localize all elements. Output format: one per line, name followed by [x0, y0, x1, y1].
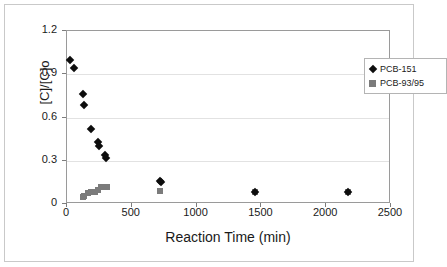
x-tick-mark: [131, 203, 132, 207]
data-point-pcb-93-95: [157, 188, 163, 194]
x-tick-label: 1500: [235, 207, 285, 218]
gridline: [67, 74, 389, 75]
x-axis-title: Reaction Time (min): [66, 229, 390, 245]
gridline: [67, 161, 389, 162]
x-tick-label: 500: [106, 207, 156, 218]
x-tick-mark: [66, 203, 67, 207]
data-point-pcb-151: [87, 125, 95, 133]
y-tick-label: 1.2: [5, 24, 57, 35]
x-tick-label: 1000: [171, 207, 221, 218]
chart-legend: PCB-151 PCB-93/95: [364, 58, 447, 94]
y-tick-label: 0.3: [5, 154, 57, 165]
data-point-pcb-151: [79, 90, 87, 98]
diamond-icon: [369, 65, 377, 73]
x-tick-mark: [196, 203, 197, 207]
data-point-pcb-151: [70, 64, 78, 72]
y-tick-label: 0.6: [5, 111, 57, 122]
x-tick-mark: [260, 203, 261, 207]
x-tick-label: 2000: [300, 207, 350, 218]
x-tick-mark: [325, 203, 326, 207]
data-point-pcb-93-95: [104, 184, 110, 190]
legend-item-label: PCB-93/95: [380, 78, 424, 88]
legend-item-pcb-93-95: PCB-93/95: [369, 76, 442, 90]
data-point-pcb-151: [80, 100, 88, 108]
gridline: [67, 118, 389, 119]
chart-figure: [C]/[C]o 00.30.60.91.2 05001000150020002…: [4, 4, 414, 262]
y-tick-label: 0.9: [5, 67, 57, 78]
x-tick-mark: [390, 203, 391, 207]
data-point-pcb-151: [157, 178, 165, 186]
legend-item-pcb-151: PCB-151: [369, 62, 442, 76]
data-point-pcb-151: [95, 142, 103, 150]
plot-area: PCB-151 PCB-93/95: [66, 30, 390, 203]
x-tick-label: 0: [41, 207, 91, 218]
x-tick-label: 2500: [365, 207, 415, 218]
data-point-pcb-151: [65, 56, 73, 64]
square-icon: [369, 80, 376, 87]
legend-item-label: PCB-151: [380, 64, 417, 74]
